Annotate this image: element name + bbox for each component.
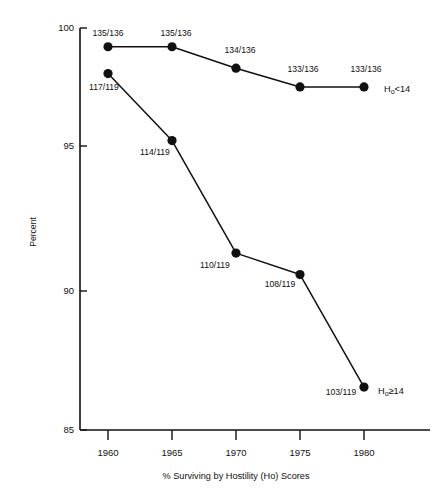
data-point[interactable] xyxy=(167,42,176,51)
data-point[interactable] xyxy=(167,136,176,145)
data-point-label: 135/136 xyxy=(160,28,191,38)
data-point-label: 110/119 xyxy=(200,260,230,270)
series-label-tail: <14 xyxy=(395,84,411,94)
data-point-label: 114/119 xyxy=(140,147,170,157)
data-point[interactable] xyxy=(295,82,304,91)
data-point-label: 134/136 xyxy=(224,45,255,55)
series-ho-gte-14-line xyxy=(108,74,364,388)
data-point-label: 117/119 xyxy=(89,82,119,92)
y-tick-label-95: 95 xyxy=(63,140,74,151)
data-point[interactable] xyxy=(103,42,112,51)
x-tick-label-1980: 1980 xyxy=(353,447,374,458)
x-tick-label-1970: 1970 xyxy=(225,447,246,458)
data-point[interactable] xyxy=(231,249,240,258)
data-point-label: 108/119 xyxy=(265,279,296,289)
series-label-main: H xyxy=(384,84,391,94)
series-label-tail: ≥14 xyxy=(389,386,404,396)
y-axis-title: Percent xyxy=(28,217,38,247)
data-point[interactable] xyxy=(359,383,368,392)
x-tick-label-1960: 1960 xyxy=(97,447,118,458)
y-tick-label-85: 85 xyxy=(63,424,74,435)
data-point-label: 133/136 xyxy=(350,64,381,74)
data-point[interactable] xyxy=(295,270,304,279)
series-ho-lt-14: 135/136 135/136 134/136 133/136 133/136 … xyxy=(92,28,410,95)
x-tick-label-1975: 1975 xyxy=(289,447,310,458)
series-label-ho-gte-14: Ho≥14 xyxy=(378,386,404,397)
chart-container: 100 95 90 85 1960 1965 1970 1975 1980 % … xyxy=(0,0,444,494)
y-tick-label-100: 100 xyxy=(58,22,74,33)
data-point[interactable] xyxy=(231,64,240,73)
data-point[interactable] xyxy=(359,82,368,91)
line-chart: 100 95 90 85 1960 1965 1970 1975 1980 % … xyxy=(0,0,444,494)
data-point-label: 133/136 xyxy=(287,64,318,74)
x-tick-label-1965: 1965 xyxy=(161,447,182,458)
series-label-ho-lt-14: Ho<14 xyxy=(384,84,410,95)
series-label-main: H xyxy=(378,386,385,396)
data-point-label: 135/136 xyxy=(92,28,123,38)
data-point[interactable] xyxy=(103,69,112,78)
y-tick-label-90: 90 xyxy=(63,285,74,296)
x-axis-title: % Surviving by Hostility (Ho) Scores xyxy=(162,471,309,481)
series-ho-gte-14: 117/119 114/119 110/119 108/119 103/119 … xyxy=(89,69,404,397)
data-point-label: 103/119 xyxy=(326,387,357,397)
